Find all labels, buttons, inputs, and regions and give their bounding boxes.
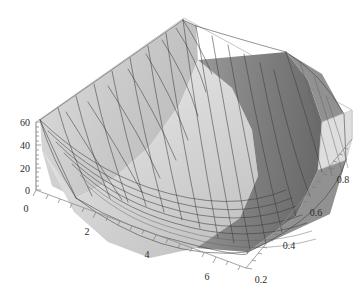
x-tick-label-0: 0 [24, 203, 29, 214]
z-tick-label-2: 20 [20, 163, 30, 174]
plot-canvas: 60 40 20 0 0 2 [0, 0, 362, 297]
y-tick-label-2: 0.6 [310, 207, 323, 218]
x-tick-label-1: 2 [85, 226, 90, 237]
z-axis: 60 40 20 0 [20, 117, 41, 196]
z-tick-label-1: 40 [20, 140, 30, 151]
y-tick-label-1: 0.4 [283, 240, 296, 251]
z-tick-label-3: 0 [25, 185, 30, 196]
x-tick-label-2: 4 [145, 249, 150, 260]
z-tick-label-0: 60 [20, 117, 30, 128]
y-tick-label-3: 0.8 [337, 174, 350, 185]
y-tick-label-0: 0.2 [255, 274, 268, 285]
surface-plot-figure: 60 40 20 0 0 2 [0, 0, 362, 297]
x-tick-label-3: 6 [205, 271, 210, 282]
